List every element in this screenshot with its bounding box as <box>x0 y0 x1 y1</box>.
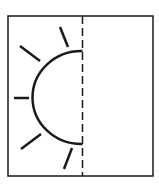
diagram-canvas <box>0 0 159 186</box>
sun-ray-lower-left <box>21 134 41 149</box>
square-frame <box>8 16 153 176</box>
sun-ray-bottom <box>64 148 72 169</box>
sun-ray-top <box>60 27 68 47</box>
sun-ray-upper-left <box>20 46 40 61</box>
sun-rays <box>14 27 72 169</box>
half-sun-arc <box>33 51 83 144</box>
